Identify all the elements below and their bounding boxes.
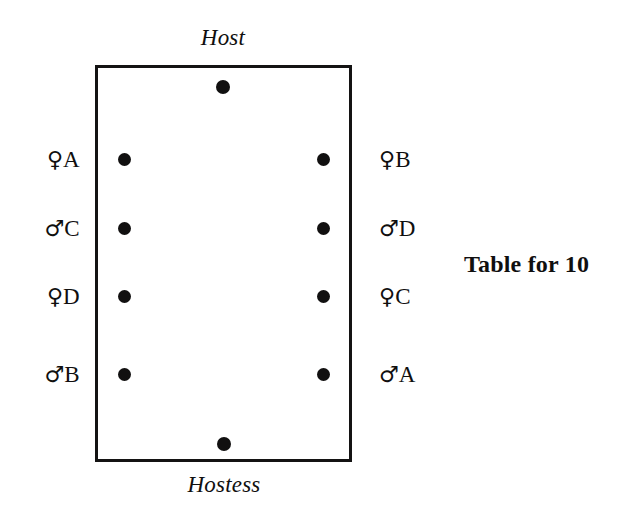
seat-dot-right-2 [317, 222, 330, 235]
seat-dot-hostess [217, 437, 231, 451]
male-symbol-icon: ♂ [379, 362, 399, 387]
guest-letter: D [63, 284, 80, 309]
guest-label-left-4: ♂B [2, 363, 80, 386]
guest-letter: B [64, 362, 80, 387]
female-symbol-icon: ♀ [379, 147, 395, 172]
guest-label-right-3: ♀C [379, 285, 411, 308]
seat-dot-right-4 [317, 368, 330, 381]
guest-label-left-2: ♂C [2, 217, 80, 240]
guest-label-left-3: ♀D [2, 285, 80, 308]
seat-dot-left-4 [118, 368, 131, 381]
hostess-label: Hostess [0, 473, 448, 496]
seat-dot-right-1 [317, 153, 330, 166]
guest-letter: B [395, 147, 411, 172]
table-rectangle [95, 65, 352, 462]
guest-label-right-1: ♀B [379, 148, 411, 171]
seat-dot-host [216, 80, 230, 94]
guest-label-right-4: ♂A [379, 363, 416, 386]
guest-letter: C [395, 284, 411, 309]
host-label: Host [0, 26, 446, 49]
male-symbol-icon: ♂ [379, 216, 399, 241]
female-symbol-icon: ♀ [47, 284, 63, 309]
guest-letter: A [399, 362, 416, 387]
guest-label-right-2: ♂D [379, 217, 416, 240]
guest-letter: C [64, 216, 80, 241]
seat-dot-left-1 [118, 153, 131, 166]
guest-label-left-1: ♀A [2, 148, 80, 171]
male-symbol-icon: ♂ [45, 362, 65, 387]
figure-caption: Table for 10 [464, 252, 589, 276]
seating-chart-figure: Host ♀A ♂C ♀D ♂B ♀B ♂D ♀C ♂A Hostess Tab… [0, 0, 621, 518]
seat-dot-left-2 [118, 222, 131, 235]
male-symbol-icon: ♂ [45, 216, 65, 241]
seat-dot-right-3 [317, 290, 330, 303]
female-symbol-icon: ♀ [47, 147, 63, 172]
seat-dot-left-3 [118, 290, 131, 303]
guest-letter: A [63, 147, 80, 172]
guest-letter: D [399, 216, 416, 241]
female-symbol-icon: ♀ [379, 284, 395, 309]
